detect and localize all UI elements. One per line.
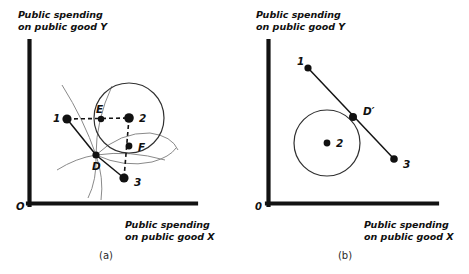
figure-root: Public spending on public good Y O: [0, 0, 469, 274]
point-marker-D-prime: [349, 113, 357, 121]
panel-a-points: 1 E 2 D F 3: [53, 103, 146, 188]
point-label-E: E: [96, 103, 104, 115]
point-label-2: 2: [336, 137, 343, 149]
solid-1-to-3: [308, 68, 394, 159]
panel-b-x-axis-label-line2: on public good X: [364, 231, 454, 242]
indifference-curve-5: [96, 148, 176, 164]
point-marker-D: [92, 151, 99, 158]
point-marker-F: [126, 143, 133, 150]
point-marker-3: [119, 173, 128, 182]
solid-1-to-D: [67, 119, 96, 155]
point-marker-E: [98, 116, 104, 122]
point-label-2: 2: [139, 112, 146, 124]
panel-a-y-axis-label-line2: on public good Y: [18, 21, 108, 32]
panel-a-y-axis-label-line1: Public spending: [18, 9, 103, 20]
point-marker-1: [304, 64, 311, 71]
panel-b-x-axis-label-line1: Public spending: [364, 219, 449, 230]
panel-a-x-axis-label-line2: on public good X: [125, 231, 215, 242]
point-label-D-prime: D′: [363, 105, 375, 117]
point-marker-2: [324, 140, 331, 147]
point-label-1: 1: [53, 112, 60, 124]
panel-a: Public spending on public good Y O: [16, 9, 215, 261]
point-label-D: D: [92, 160, 101, 172]
point-marker-2: [124, 113, 134, 123]
panel-b-y-axis-label-line2: on public good Y: [256, 21, 346, 32]
point-label-F: F: [138, 141, 146, 153]
panel-b-origin-label: 0: [255, 201, 262, 212]
point-label-3: 3: [403, 158, 410, 170]
panel-b-caption: (b): [338, 250, 352, 261]
panel-b: Public spending on public good Y 0 1 D′ …: [255, 9, 454, 261]
point-marker-1: [62, 114, 71, 123]
panel-b-y-axis-label-line1: Public spending: [256, 9, 341, 20]
panel-a-origin-label: O: [16, 201, 25, 212]
panel-a-caption: (a): [99, 250, 113, 261]
point-marker-3: [390, 155, 398, 163]
panel-a-x-axis-label-line1: Public spending: [125, 219, 210, 230]
point-label-3: 3: [134, 176, 141, 188]
point-label-1: 1: [297, 55, 304, 67]
